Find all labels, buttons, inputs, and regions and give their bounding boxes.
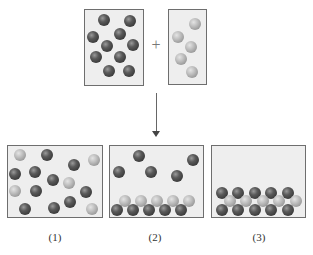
light-particle [88,154,100,166]
light-particle [86,203,98,215]
dark-particle [87,31,99,43]
plus-sign: + [149,36,163,54]
dark-particle [171,170,183,182]
dark-particle [282,204,294,216]
dark-particle [103,65,115,77]
dark-particle [19,203,31,215]
option-label-1: (1) [40,231,70,243]
dark-particle [127,204,139,216]
light-particle [189,18,201,30]
light-particle [14,149,26,161]
dark-particle [68,159,80,171]
dark-particle [80,186,92,198]
dark-particle [133,150,145,162]
arrow-head [152,131,160,137]
dark-particle [216,204,228,216]
dark-particle [143,204,155,216]
dark-particle [30,185,42,197]
dark-particle [124,15,136,27]
dark-particle [249,204,261,216]
option-label-2: (2) [140,231,170,243]
dark-particle [90,51,102,63]
dark-particle [113,166,125,178]
dark-particle [98,14,110,26]
arrow-shaft [156,93,157,133]
light-particle [172,31,184,43]
dark-particle [9,168,21,180]
dark-particle [111,204,123,216]
dark-particle [41,149,53,161]
dark-particle [127,39,139,51]
light-particle [185,41,197,53]
dark-particle [159,204,171,216]
dark-particle [114,28,126,40]
dark-particle [187,154,199,166]
light-particle [186,66,198,78]
light-particle [63,177,75,189]
dark-particle [175,204,187,216]
dark-particle [64,196,76,208]
dark-particle [101,40,113,52]
dark-particle [48,202,60,214]
dark-particle [29,166,41,178]
light-particle [175,53,187,65]
dark-particle [114,51,126,63]
dark-particle [265,204,277,216]
dark-particle [232,204,244,216]
dark-particle [47,174,59,186]
option-label-3: (3) [244,231,274,243]
light-particle [9,185,21,197]
dark-particle [145,166,157,178]
dark-particle [123,65,135,77]
